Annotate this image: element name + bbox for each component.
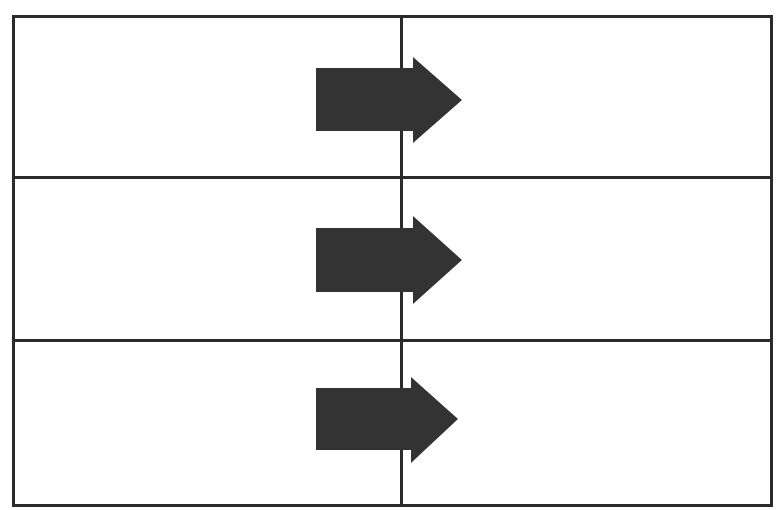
right-arrow-icon[interactable]: [314, 214, 464, 306]
right-arrow-polygon: [316, 216, 462, 304]
right-arrow-icon[interactable]: [314, 375, 460, 465]
right-arrow-icon[interactable]: [314, 55, 464, 145]
right-arrow-polygon: [316, 57, 462, 143]
right-arrow-shape: [314, 375, 460, 465]
right-arrow-polygon: [316, 377, 458, 463]
right-arrow-shape: [314, 214, 464, 306]
diagram-canvas: [0, 0, 776, 510]
right-arrow-shape: [314, 55, 464, 145]
